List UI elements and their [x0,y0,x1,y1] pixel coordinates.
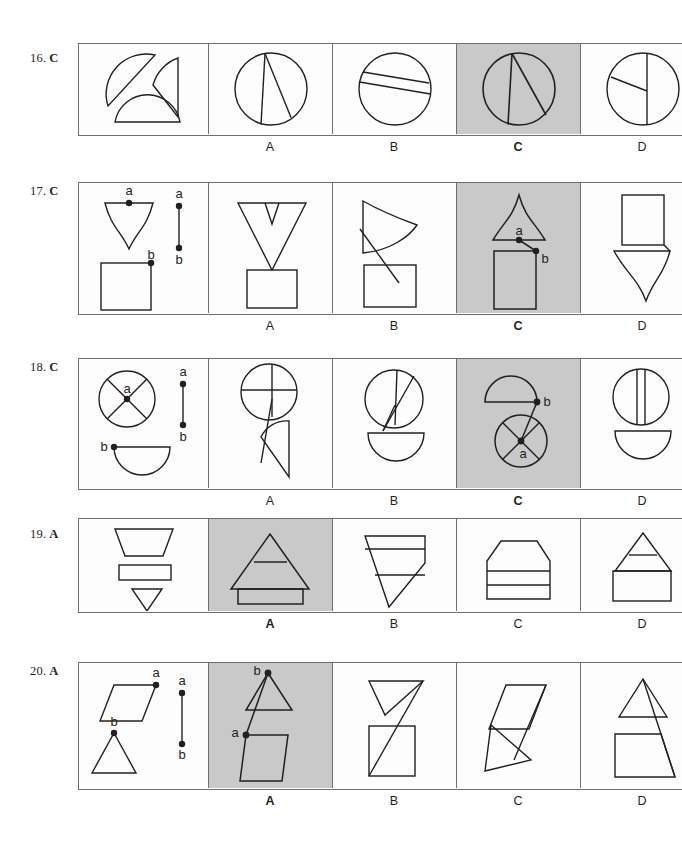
point-label-b: b [541,251,548,266]
point-label-a: a [515,223,523,238]
choice-label-19-B: B [332,617,456,631]
choice-cell-17-B[interactable] [333,183,457,313]
point-label-a: a [231,725,239,740]
choice-cell-20-B[interactable] [333,663,457,788]
question-label-18: 18.C [30,360,58,375]
choice-label-17-B: B [332,319,456,333]
point-label-b: b [543,394,550,409]
answer-grid-19 [78,518,682,613]
choice-cell-18-D[interactable] [581,359,682,488]
choice-cell-20-C[interactable] [457,663,581,788]
choice-cell-16-C[interactable] [457,44,581,134]
choice-label-16-D: D [580,140,682,154]
answer-grid-18: a b a b [78,358,682,490]
point-label-b: b [147,247,154,262]
choice-label-17-C: C [456,319,580,333]
point-label-b: b [100,439,107,454]
point-label-a: a [125,183,133,198]
choice-labels-19: A B C D [78,617,682,631]
point-label-a: a [178,673,186,688]
choice-labels-16: A B C D [78,140,682,154]
prompt-cell-18: a b a b [79,359,209,488]
question-answer: A [49,664,58,678]
choice-cell-20-A[interactable]: b a [209,663,333,788]
prompt-cell-20: a b a b [79,663,209,788]
choice-label-18-C: C [456,494,580,508]
choice-labels-17: A B C D [78,319,682,333]
point-label-b: b [178,747,185,762]
choice-label-20-B: B [332,794,456,808]
choice-label-16-B: B [332,140,456,154]
choice-label-18-B: B [332,494,456,508]
choice-cell-18-A[interactable] [209,359,333,488]
choice-labels-20: A B C D [78,794,682,808]
choice-cell-16-A[interactable] [209,44,333,134]
question-number: 20. [30,664,46,678]
choice-labels-18: A B C D [78,494,682,508]
point-label-a: a [123,381,131,396]
choice-cell-16-B[interactable] [333,44,457,134]
point-label-b: b [179,429,186,444]
point-label-a: a [179,364,187,379]
question-answer: C [49,360,58,374]
question-answer: C [49,184,58,198]
choice-label-20-A: A [208,794,332,808]
question-answer: A [49,527,58,541]
point-label-a: a [152,665,160,680]
choice-label-19-A: A [208,617,332,631]
answer-grid-20: a b a b b a [78,662,682,790]
choice-label-16-C: C [456,140,580,154]
choice-cell-19-A[interactable] [209,519,333,611]
choice-cell-19-C[interactable] [457,519,581,611]
answer-grid-17: a b a b [78,182,682,315]
question-label-20: 20.A [30,664,58,679]
point-label-b: b [175,252,182,267]
choice-cell-17-A[interactable] [209,183,333,313]
question-number: 19. [30,527,46,541]
choice-cell-17-C[interactable]: a b [457,183,581,313]
choice-cell-19-B[interactable] [333,519,457,611]
choice-label-20-D: D [580,794,682,808]
question-number: 17. [30,184,46,198]
answer-grid-16 [78,43,682,136]
choice-cell-18-C[interactable]: b a [457,359,581,488]
choice-label-19-D: D [580,617,682,631]
choice-label-20-C: C [456,794,580,808]
question-label-16: 16.C [30,51,58,66]
point-label-a: a [519,446,527,461]
choice-cell-19-D[interactable] [581,519,682,611]
choice-label-17-A: A [208,319,332,333]
choice-label-18-D: D [580,494,682,508]
worksheet-page: 16.C [0,0,682,844]
choice-cell-17-D[interactable] [581,183,682,313]
choice-cell-16-D[interactable] [581,44,682,134]
choice-label-19-C: C [456,617,580,631]
question-answer: C [49,51,58,65]
choice-label-17-D: D [580,319,682,333]
choice-cell-20-D[interactable] [581,663,682,788]
choice-label-18-A: A [208,494,332,508]
question-number: 16. [30,51,46,65]
question-label-19: 19.A [30,527,58,542]
choice-cell-18-B[interactable] [333,359,457,488]
prompt-cell-16 [79,44,209,134]
point-label-b: b [110,714,117,729]
prompt-cell-17: a b a b [79,183,209,313]
prompt-cell-19 [79,519,209,611]
question-number: 18. [30,360,46,374]
point-label-b: b [253,663,260,678]
point-label-a: a [175,186,183,201]
question-label-17: 17.C [30,184,58,199]
choice-label-16-A: A [208,140,332,154]
